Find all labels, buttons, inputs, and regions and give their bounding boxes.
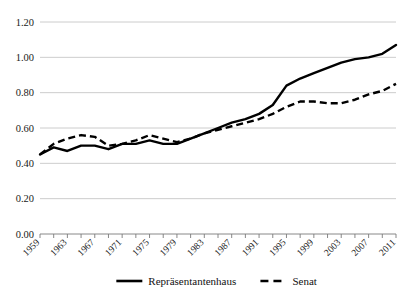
x-axis-tick-label: 1999 — [295, 237, 316, 258]
y-axis-tick-label: 0.80 — [16, 87, 34, 98]
y-axis-tick-label: 1.00 — [16, 52, 34, 63]
chart-canvas: 0.000.200.400.600.801.001.20 19591963196… — [0, 0, 404, 299]
x-axis-tick-label: 1971 — [103, 237, 124, 258]
series-line-senat — [40, 84, 396, 155]
y-axis-tick-label: 0.00 — [16, 229, 34, 240]
y-axis-tick-label: 1.20 — [16, 17, 34, 28]
x-axis-labels-group: 1959196319671971197519791983198719911995… — [21, 237, 398, 258]
chart-legend: RepräsentantenhausSenat — [116, 275, 317, 287]
x-axis-tick-label: 2007 — [350, 237, 371, 258]
legend-label: Repräsentantenhaus — [148, 275, 236, 287]
legend-label: Senat — [292, 275, 316, 287]
y-axis-tick-label: 0.40 — [16, 158, 34, 169]
x-axis-tick-label: 1995 — [267, 237, 288, 258]
data-series-group — [40, 45, 396, 155]
x-axis-tick-label: 1967 — [76, 237, 97, 258]
x-axis-tick-label: 1991 — [240, 237, 261, 258]
series-line-repraesentantenhaus — [40, 45, 396, 155]
x-axis-tick-label: 1983 — [185, 237, 206, 258]
x-axis-tick-label: 1963 — [48, 237, 69, 258]
x-axis-tick-label: 2003 — [322, 237, 343, 258]
x-axis-tick-label: 1987 — [213, 237, 234, 258]
y-axis-tick-label: 0.60 — [16, 123, 34, 134]
x-tick-marks-group — [40, 234, 396, 238]
x-axis-tick-label: 1979 — [158, 237, 179, 258]
x-axis-tick-label: 1975 — [130, 237, 151, 258]
legend-item: Repräsentantenhaus — [116, 275, 236, 287]
line-chart: 0.000.200.400.600.801.001.20 19591963196… — [0, 0, 404, 299]
x-axis-tick-label: 2011 — [377, 237, 397, 257]
y-axis-tick-label: 0.20 — [16, 193, 34, 204]
x-axis-tick-label: 1959 — [21, 237, 42, 258]
y-axis-labels-group: 0.000.200.400.600.801.001.20 — [16, 17, 34, 240]
legend-item: Senat — [260, 275, 316, 287]
